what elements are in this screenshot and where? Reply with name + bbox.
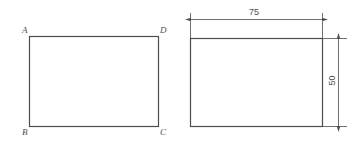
vertex-label-d: D <box>160 26 167 35</box>
right-rectangle <box>191 39 323 127</box>
drawing-canvas: A D B C 75 50 <box>0 0 355 147</box>
left-rectangle-group <box>30 37 159 127</box>
drawing-vector-layer <box>0 0 355 147</box>
width-dimension-value: 75 <box>249 8 259 17</box>
left-rectangle <box>30 37 159 127</box>
height-dimension-value: 50 <box>328 75 337 85</box>
vertex-label-c: C <box>160 128 166 137</box>
right-rectangle-group <box>191 13 348 127</box>
vertex-label-b: B <box>22 128 28 137</box>
vertex-label-a: A <box>22 26 28 35</box>
